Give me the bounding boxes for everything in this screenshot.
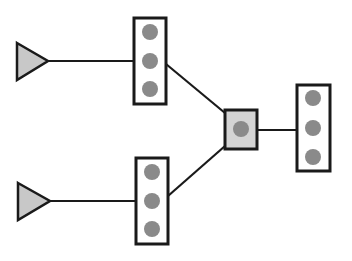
stack-top-dot-1 xyxy=(142,24,158,40)
stack-bottom xyxy=(136,158,168,244)
stack-bottom-dot-3 xyxy=(144,221,160,237)
edge-stack-top-to-hub xyxy=(166,64,225,113)
stack-top-dot-2 xyxy=(142,53,158,69)
edge-stack-bottom-to-hub xyxy=(168,146,225,196)
hub-dot xyxy=(233,121,249,137)
edges-layer xyxy=(48,61,297,201)
stack-bottom-dot-1 xyxy=(144,164,160,180)
hub-node xyxy=(225,110,257,149)
source-top-triangle-icon xyxy=(17,43,48,80)
stack-bottom-dot-2 xyxy=(144,193,160,209)
stack-right-dot-1 xyxy=(305,90,321,106)
stack-right-dot-2 xyxy=(305,120,321,136)
source-bottom-triangle-icon xyxy=(18,183,50,220)
stack-right-dot-3 xyxy=(305,149,321,165)
stack-right xyxy=(297,85,330,171)
stack-top xyxy=(134,18,166,104)
stack-top-dot-3 xyxy=(142,81,158,97)
network-diagram xyxy=(0,0,352,261)
